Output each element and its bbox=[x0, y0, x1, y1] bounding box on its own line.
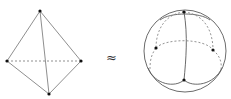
tetrahedron bbox=[7, 11, 81, 94]
approx-symbol: ≈ bbox=[106, 51, 117, 64]
